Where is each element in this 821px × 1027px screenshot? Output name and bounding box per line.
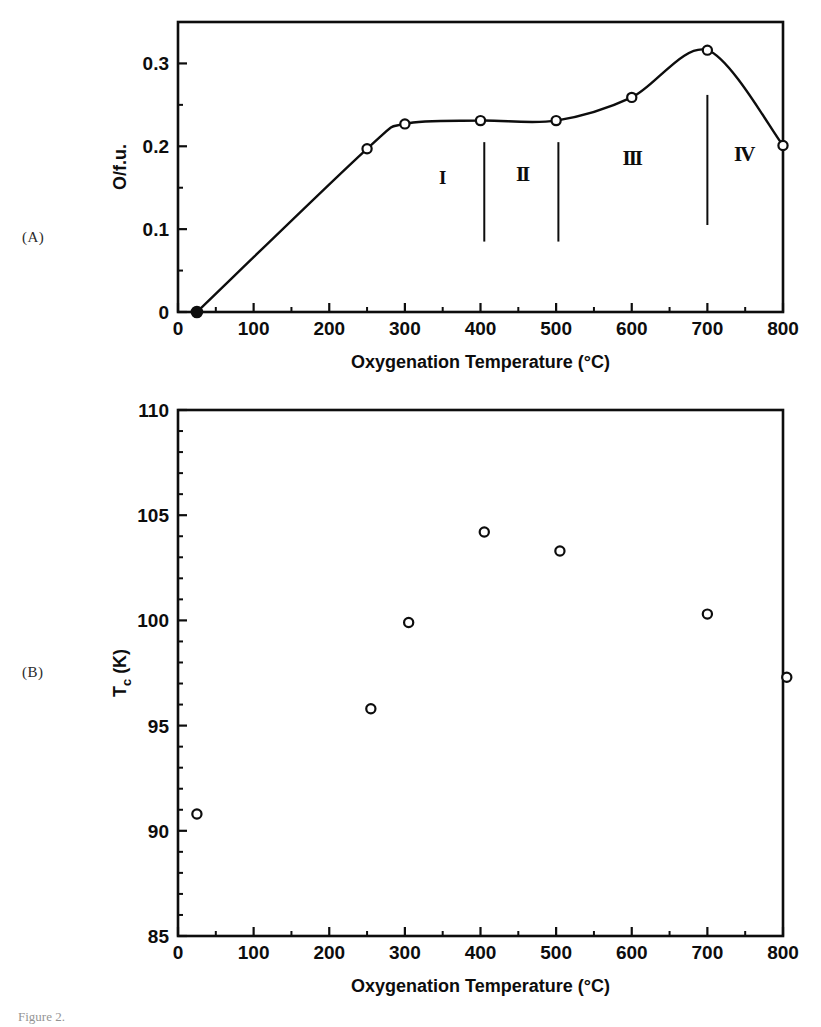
- x-tick-label: 500: [540, 318, 572, 339]
- y-tick-label: 0.1: [143, 219, 170, 240]
- x-tick-label: 600: [616, 318, 648, 339]
- data-point: [192, 307, 202, 317]
- y-tick-label: 0.2: [143, 136, 169, 157]
- x-tick-label: 800: [767, 942, 799, 963]
- y-tick-label: 95: [148, 716, 170, 737]
- data-point: [366, 704, 375, 713]
- y-tick-label: 105: [137, 505, 169, 526]
- y-axis-title: Tc (K): [110, 649, 134, 697]
- data-point: [192, 809, 201, 818]
- data-point: [552, 116, 561, 125]
- x-tick-label: 700: [692, 318, 724, 339]
- x-axis-title: Oxygenation Temperature (°C): [351, 352, 610, 372]
- y-axis-title-text: O/f.u.: [110, 144, 130, 190]
- region-label: II: [516, 162, 530, 186]
- data-point: [782, 673, 791, 682]
- data-point: [555, 546, 564, 555]
- data-point: [480, 527, 489, 536]
- x-tick-label: 300: [389, 942, 421, 963]
- x-tick-label: 600: [616, 942, 648, 963]
- x-tick-label: 300: [389, 318, 421, 339]
- data-point: [362, 144, 371, 153]
- plot-frame: [178, 22, 783, 312]
- data-point: [400, 119, 409, 128]
- y-axis-title: O/f.u.: [110, 144, 130, 190]
- panel-b-plot: 0100200300400500600700800859095100105110…: [0, 400, 821, 1020]
- x-tick-label: 0: [173, 318, 184, 339]
- region-label: IV: [734, 142, 755, 166]
- y-tick-label: 90: [148, 821, 169, 842]
- x-tick-label: 800: [767, 318, 799, 339]
- y-tick-label: 85: [148, 926, 170, 947]
- x-tick-label: 400: [465, 318, 497, 339]
- y-tick-label: 100: [137, 610, 169, 631]
- plot-frame: [178, 410, 783, 936]
- x-tick-label: 200: [313, 318, 345, 339]
- x-tick-label: 0: [173, 942, 184, 963]
- x-tick-label: 500: [540, 942, 572, 963]
- x-tick-label: 100: [238, 942, 270, 963]
- figure-container: (A) (B) 010020030040050060070080000.10.2…: [0, 0, 821, 1027]
- data-line: [197, 49, 783, 312]
- figure-caption: Figure 2.: [18, 1009, 65, 1025]
- data-point: [703, 609, 712, 618]
- data-point: [404, 618, 413, 627]
- y-tick-label: 110: [138, 400, 169, 421]
- region-label: III: [622, 146, 642, 170]
- data-point: [703, 46, 712, 55]
- data-point: [627, 93, 636, 102]
- x-tick-label: 700: [692, 942, 724, 963]
- y-axis-title-text: Tc (K): [110, 649, 134, 697]
- x-tick-label: 100: [238, 318, 270, 339]
- x-tick-label: 200: [313, 942, 345, 963]
- panel-a-plot: 010020030040050060070080000.10.20.3Oxyge…: [0, 0, 821, 400]
- x-axis-title: Oxygenation Temperature (°C): [351, 976, 610, 996]
- y-tick-label: 0.3: [143, 53, 169, 74]
- region-label: I: [439, 167, 446, 188]
- data-point: [778, 141, 787, 150]
- y-tick-label: 0: [158, 302, 169, 323]
- data-point: [476, 116, 485, 125]
- x-tick-label: 400: [465, 942, 497, 963]
